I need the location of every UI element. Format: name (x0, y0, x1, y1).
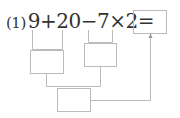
product-box[interactable] (85, 44, 117, 67)
bracket-difference (47, 67, 101, 87)
sum-box[interactable] (31, 51, 64, 74)
bracket-product (89, 30, 113, 43)
difference-box[interactable] (58, 89, 91, 112)
result-arrow-line (91, 36, 151, 101)
answer-box[interactable] (134, 11, 167, 34)
calculation-diagram (0, 0, 180, 118)
bracket-sum (33, 30, 63, 50)
